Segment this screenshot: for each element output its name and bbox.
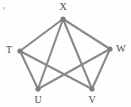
vertex-label-u: U <box>34 95 41 105</box>
graph-node-x <box>60 16 65 21</box>
graph-node-t <box>17 48 22 53</box>
graph-edge-t-v <box>20 51 92 89</box>
graph-edge-w-u <box>38 49 110 89</box>
vertex-label-t: T <box>6 45 12 55</box>
vertex-label-v: V <box>88 95 95 105</box>
graph-canvas <box>0 0 131 107</box>
edge-layer <box>20 19 110 89</box>
graph-node-u <box>35 86 40 91</box>
graph-node-w <box>107 46 112 51</box>
vertex-label-w: W <box>116 44 125 54</box>
vertex-label-x: X <box>59 2 66 12</box>
node-layer <box>17 16 112 91</box>
graph-node-v <box>89 86 94 91</box>
graph-diagram: XTWUV <box>0 0 131 107</box>
